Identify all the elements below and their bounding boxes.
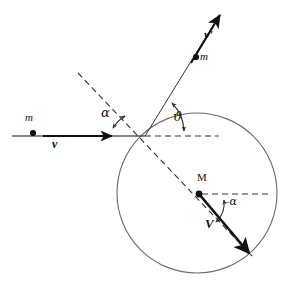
alpha-angle-arc	[113, 116, 125, 128]
incident-mass-dot	[30, 130, 36, 136]
normal-dashed-line	[78, 73, 252, 256]
recoil-velocity-label: V	[205, 217, 214, 230]
physics-diagram-figure: m v m v' M V α ϑ –α	[0, 0, 291, 287]
incident-mass-label: m	[25, 112, 33, 123]
alpha-angle-label: α	[101, 106, 110, 119]
target-mass-label: M	[197, 172, 207, 183]
scattered-mass-label: m	[200, 51, 208, 62]
incident-velocity-label: v	[52, 138, 57, 150]
scattering-diagram-canvas	[0, 0, 291, 287]
target-mass-dot	[196, 191, 203, 198]
scattered-velocity-label: v'	[204, 29, 213, 41]
scattered-mass-dot	[193, 54, 199, 60]
theta-angle-label: ϑ	[173, 110, 182, 123]
minus-alpha-angle-label: –α	[224, 196, 237, 207]
